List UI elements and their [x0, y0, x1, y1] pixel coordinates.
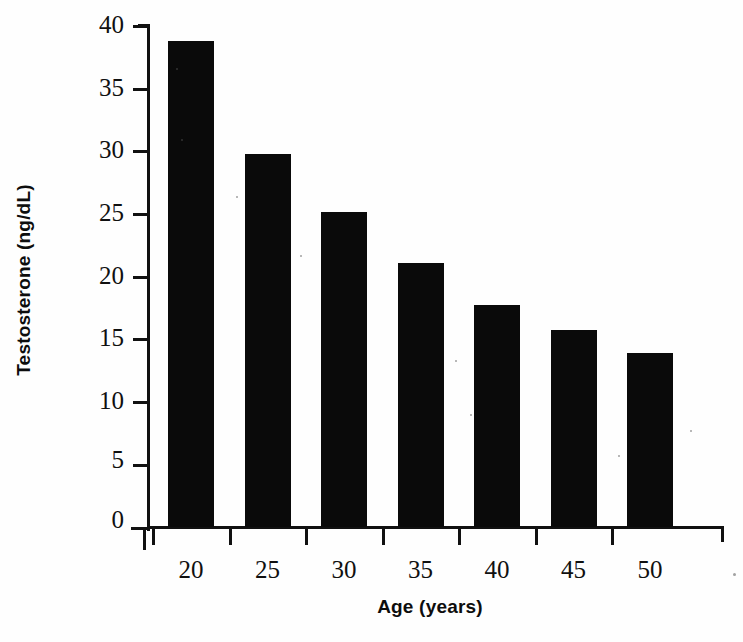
y-axis-tick [131, 527, 149, 530]
y-axis-tick-label: 15 [62, 324, 124, 352]
y-axis-tick-label: 40 [62, 11, 124, 39]
x-axis-tick [152, 528, 155, 545]
scan-speck [300, 255, 302, 257]
y-axis-tick [133, 88, 149, 91]
y-axis-tick-label: 5 [62, 446, 124, 474]
y-axis-tick [133, 150, 149, 153]
y-axis-tick [133, 213, 149, 216]
x-axis-tick [458, 528, 461, 545]
bar-series [150, 27, 722, 527]
y-axis-title-text: Testosterone (ng/dL) [13, 184, 35, 376]
y-axis-tick [133, 25, 149, 28]
bar [168, 41, 214, 526]
y-axis-tick-label: 20 [62, 262, 124, 290]
scan-speck [690, 430, 692, 432]
bar [474, 305, 520, 527]
bar [398, 263, 444, 526]
y-axis-tick [133, 338, 149, 341]
y-axis-tick [133, 464, 149, 467]
scan-speck [618, 455, 620, 457]
scan-speck [455, 360, 457, 362]
scan-speck [176, 68, 178, 70]
x-axis-tick-label: 45 [539, 556, 609, 584]
bar [245, 154, 291, 526]
x-axis-tick-label: 50 [615, 556, 685, 584]
x-axis-tick [382, 528, 385, 545]
y-axis-title: Testosterone (ng/dL) [0, 0, 48, 560]
x-axis-tick [229, 528, 232, 545]
bar [551, 330, 597, 527]
x-axis-tick [611, 528, 614, 545]
x-axis-tick-label: 35 [386, 556, 456, 584]
bar-chart-figure: Testosterone (ng/dL) 0510152025303540 20… [0, 0, 743, 642]
x-axis-tick-label: 30 [309, 556, 379, 584]
scan-speck [470, 414, 472, 416]
x-axis-tick [535, 528, 538, 545]
y-axis-tick-label: 10 [62, 387, 124, 415]
x-axis-tick-label: 40 [462, 556, 532, 584]
scan-speck [733, 573, 736, 576]
bar [627, 353, 673, 526]
x-axis-title: Age (years) [130, 596, 730, 618]
y-axis-tick [133, 276, 149, 279]
y-axis-tick-label: 30 [62, 136, 124, 164]
bar [321, 212, 367, 527]
y-axis-tick [133, 401, 149, 404]
y-axis-tick-label: 0 [62, 506, 124, 534]
scan-speck [181, 139, 183, 141]
scan-speck [236, 196, 238, 198]
y-axis-tick-label: 25 [62, 199, 124, 227]
x-axis-right-cap [721, 526, 724, 542]
x-axis-tick [305, 528, 308, 545]
y-axis-tick-label: 35 [62, 74, 124, 102]
x-axis-tick-label: 20 [156, 556, 226, 584]
y-axis-bottom-cap [143, 528, 146, 550]
x-axis-tick-label: 25 [233, 556, 303, 584]
